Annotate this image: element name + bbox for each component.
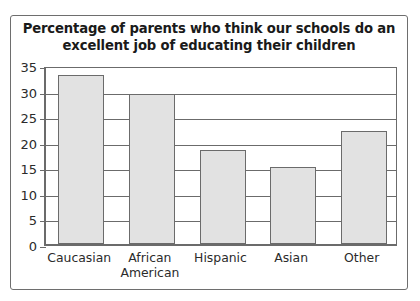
bar — [270, 167, 316, 244]
y-axis-tick — [40, 119, 46, 120]
y-axis-tick-label: 35 — [3, 60, 37, 75]
x-axis-category-label: Other — [317, 250, 406, 265]
y-axis-tick — [40, 221, 46, 222]
x-axis-category-labels: CaucasianAfricanAmericanHispanicAsianOth… — [44, 250, 397, 290]
bar-chart-figure: Percentage of parents who think our scho… — [0, 0, 420, 301]
bar — [200, 150, 246, 244]
y-axis-tick — [40, 145, 46, 146]
x-axis-category-label-line: American — [106, 265, 195, 280]
y-axis-tick — [40, 196, 46, 197]
y-axis-tick-label: 25 — [3, 111, 37, 126]
y-axis-tick-label: 30 — [3, 85, 37, 100]
plot-area — [44, 67, 397, 246]
y-axis-tick-label: 20 — [3, 136, 37, 151]
y-axis-tick-label: 0 — [3, 239, 37, 254]
bar — [58, 75, 104, 244]
y-axis-tick-label: 15 — [3, 162, 37, 177]
y-axis-tick — [40, 170, 46, 171]
chart-title-line-1: Percentage of parents who think our scho… — [18, 21, 400, 38]
y-axis-tick — [40, 94, 46, 95]
bar — [129, 94, 175, 244]
y-axis-tick — [40, 68, 46, 69]
bar — [341, 131, 387, 244]
y-axis-tick — [40, 247, 46, 248]
y-axis-tick-labels: 35302520151050 — [0, 67, 37, 246]
x-axis-category-label-line: Other — [317, 250, 406, 265]
y-axis-tick-label: 10 — [3, 187, 37, 202]
chart-title: Percentage of parents who think our scho… — [18, 21, 400, 54]
y-axis-tick-label: 5 — [3, 213, 37, 228]
chart-title-line-2: excellent job of educating their childre… — [18, 38, 400, 55]
